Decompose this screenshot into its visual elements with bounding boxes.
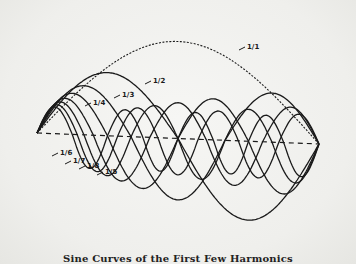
curve-label-3: 1/3 xyxy=(122,91,134,99)
curve-label-6: 1/6 xyxy=(60,149,72,157)
label-leader-3 xyxy=(114,95,120,98)
label-leader-1 xyxy=(239,47,245,50)
curve-label-1: 1/1 xyxy=(247,43,259,51)
curve-label-8: 1/8 xyxy=(87,162,99,170)
curve-label-4: 1/4 xyxy=(93,99,105,107)
curve-label-5: 1/5 xyxy=(105,168,117,176)
harmonics-diagram: 1/11/21/31/41/61/71/81/5 xyxy=(0,0,356,264)
harmonic-curve-6 xyxy=(37,102,319,183)
label-leader-6 xyxy=(52,153,58,156)
figure-caption: Sine Curves of the First Few Harmonics xyxy=(0,253,356,264)
harmonic-curve-1 xyxy=(37,41,319,144)
label-leader-2 xyxy=(145,81,151,84)
harmonic-curve-7 xyxy=(37,105,319,178)
curve-label-2: 1/2 xyxy=(153,77,165,85)
label-leader-8 xyxy=(79,166,85,169)
figure-page: 1/11/21/31/41/61/71/81/5 Sine Curves of … xyxy=(0,0,356,264)
label-leader-7 xyxy=(65,161,71,164)
